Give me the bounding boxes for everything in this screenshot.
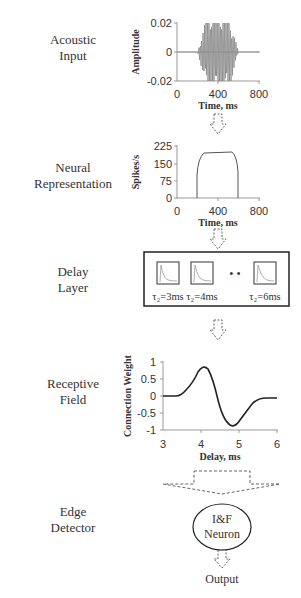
if-neuron-node: I&F Neuron bbox=[193, 504, 251, 550]
acoustic-input-chart: 0.02 0 -0.02 0 400 800 Time, ms Amplitud… bbox=[130, 11, 268, 111]
y-axis-label: Spikes/s bbox=[130, 155, 141, 190]
down-arrow-icon bbox=[210, 229, 226, 249]
ytick: 0.02 bbox=[151, 17, 172, 29]
acoustic-waveform bbox=[177, 11, 259, 92]
xtick: 400 bbox=[209, 205, 227, 217]
output-arrow-icon bbox=[214, 550, 230, 568]
tau-label: τ₂=6ms bbox=[249, 291, 280, 302]
xtick: 800 bbox=[250, 205, 268, 217]
ytick: 0 bbox=[166, 192, 172, 204]
ellipsis: • • bbox=[229, 267, 240, 281]
ytick: 0 bbox=[150, 390, 156, 402]
xtick: 400 bbox=[209, 88, 227, 100]
neuron-label-line2: Neuron bbox=[204, 527, 240, 541]
xtick: 0 bbox=[174, 205, 180, 217]
ytick: 75 bbox=[160, 175, 172, 187]
xtick: 800 bbox=[250, 88, 268, 100]
ytick: 0 bbox=[166, 46, 172, 58]
delay-layer-box: • • τ₂=3ms τ₂=4ms τ₂=6ms bbox=[144, 252, 289, 306]
xtick: 6 bbox=[274, 438, 280, 450]
wide-down-arrow-icon bbox=[163, 471, 280, 494]
xtick: 5 bbox=[236, 438, 242, 450]
ytick: -0.02 bbox=[147, 75, 172, 87]
pipeline-diagram: 0.02 0 -0.02 0 400 800 Time, ms Amplitud… bbox=[0, 0, 301, 598]
x-axis-label: Time, ms bbox=[198, 217, 237, 228]
ytick: -1 bbox=[146, 424, 156, 436]
receptive-field-chart: 1 0.5 0 -0.5 -1 3 4 5 6 Delay, ms Connec… bbox=[122, 354, 280, 462]
neural-representation-chart: 225 150 75 0 0 400 800 Time, ms Spikes/s bbox=[130, 140, 268, 228]
tau-label: τ₂=4ms bbox=[186, 291, 217, 302]
receptive-field-curve bbox=[163, 367, 277, 426]
delay-unit-tau6 bbox=[254, 262, 276, 284]
y-axis-label: Amplitude bbox=[130, 29, 141, 75]
x-axis-label: Delay, ms bbox=[199, 451, 240, 462]
down-arrow-icon bbox=[210, 114, 226, 134]
ytick: 150 bbox=[154, 158, 172, 170]
ytick: -0.5 bbox=[137, 407, 156, 419]
ytick: 225 bbox=[154, 140, 172, 152]
down-arrow-icon bbox=[210, 320, 226, 340]
delay-unit-tau4 bbox=[191, 262, 213, 284]
y-axis-label: Connection Weight bbox=[122, 354, 133, 436]
firing-rate-curve bbox=[197, 152, 238, 198]
tau-label: τ₂=3ms bbox=[152, 291, 183, 302]
output-label: Output bbox=[205, 572, 239, 586]
xtick: 4 bbox=[198, 438, 204, 450]
ytick: 1 bbox=[150, 356, 156, 368]
xtick: 0 bbox=[174, 88, 180, 100]
ytick: 0.5 bbox=[141, 373, 156, 385]
delay-unit-tau3 bbox=[157, 262, 179, 284]
neuron-label-line1: I&F bbox=[212, 512, 232, 526]
x-axis-label: Time, ms bbox=[198, 100, 237, 111]
xtick: 3 bbox=[160, 438, 166, 450]
